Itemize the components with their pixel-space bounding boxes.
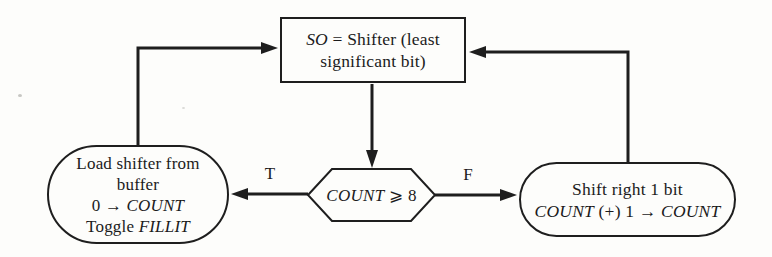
load-line3-var: COUNT	[127, 196, 185, 215]
shifter-line1-var: SO	[306, 29, 328, 49]
arrowhead-right-into-shifter	[469, 46, 486, 58]
scan-speck	[18, 94, 22, 97]
load-line3-pre: 0 →	[92, 196, 127, 215]
flowchart-canvas: SO = Shifter (least significant bit) COU…	[0, 0, 772, 257]
false-branch-label: F	[458, 165, 478, 185]
node-shift-right: Shift right 1 bit COUNT (+) 1 → COUNT	[519, 162, 736, 237]
node-shifter-output: SO = Shifter (least significant bit)	[280, 17, 466, 83]
decision-rest: ⩾ 8	[384, 186, 416, 205]
load-line3: 0 → COUNT	[92, 195, 185, 216]
shift-line2: COUNT (+) 1 → COUNT	[535, 200, 721, 222]
load-line4-pre: Toggle	[86, 217, 139, 236]
edge-load-to-shifter	[138, 48, 264, 146]
node-decision-count: COUNT ⩾ 8	[308, 169, 435, 221]
load-line4-var: FILLIT	[139, 217, 190, 236]
decision-var: COUNT	[326, 186, 384, 205]
shifter-line2: significant bit)	[320, 50, 426, 72]
scan-speck	[182, 107, 185, 109]
decision-text: COUNT ⩾ 8	[326, 185, 416, 206]
shift-line2-var1: COUNT	[535, 201, 594, 221]
arrowhead-into-decision	[366, 150, 378, 168]
arrowhead-left-into-shifter	[261, 42, 278, 54]
shifter-line1-rest: = Shifter (least	[328, 29, 440, 49]
arrowhead-into-load	[231, 188, 248, 200]
load-line2: buffer	[117, 174, 159, 195]
node-load-shifter: Load shifter from buffer 0 → COUNT Toggl…	[47, 145, 229, 244]
shift-line2-mid: (+) 1 →	[594, 201, 661, 221]
load-line4: Toggle FILLIT	[86, 216, 190, 237]
true-branch-label: T	[260, 164, 280, 184]
shift-line1: Shift right 1 bit	[572, 178, 683, 200]
shift-line2-var2: COUNT	[661, 201, 720, 221]
load-line1: Load shifter from	[76, 153, 199, 174]
edge-shift-to-shifter	[483, 52, 628, 163]
shifter-line1: SO = Shifter (least	[306, 28, 440, 50]
arrowhead-into-shift	[500, 189, 517, 201]
